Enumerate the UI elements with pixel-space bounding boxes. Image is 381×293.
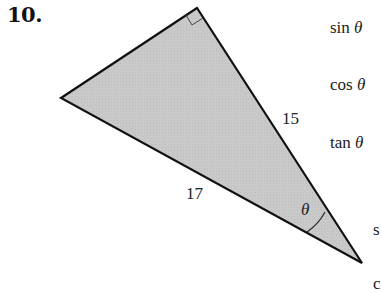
cutoff-text-s: s — [373, 220, 380, 240]
trig-fn: tan — [330, 133, 351, 152]
trig-var: θ — [355, 133, 363, 152]
trig-var: θ — [357, 75, 365, 94]
hypotenuse-label-17: 17 — [186, 184, 203, 204]
trig-fn: cos — [330, 75, 353, 94]
side-label-15: 15 — [282, 109, 299, 129]
trig-cos: cos θ — [330, 75, 365, 95]
trig-sin: sin θ — [330, 18, 362, 38]
angle-label-theta: θ — [301, 200, 309, 220]
triangle-shape — [61, 8, 362, 263]
cutoff-text-c: c — [373, 274, 381, 293]
trig-var: θ — [354, 18, 362, 37]
trig-fn: sin — [330, 18, 350, 37]
trig-tan: tan θ — [330, 133, 363, 153]
